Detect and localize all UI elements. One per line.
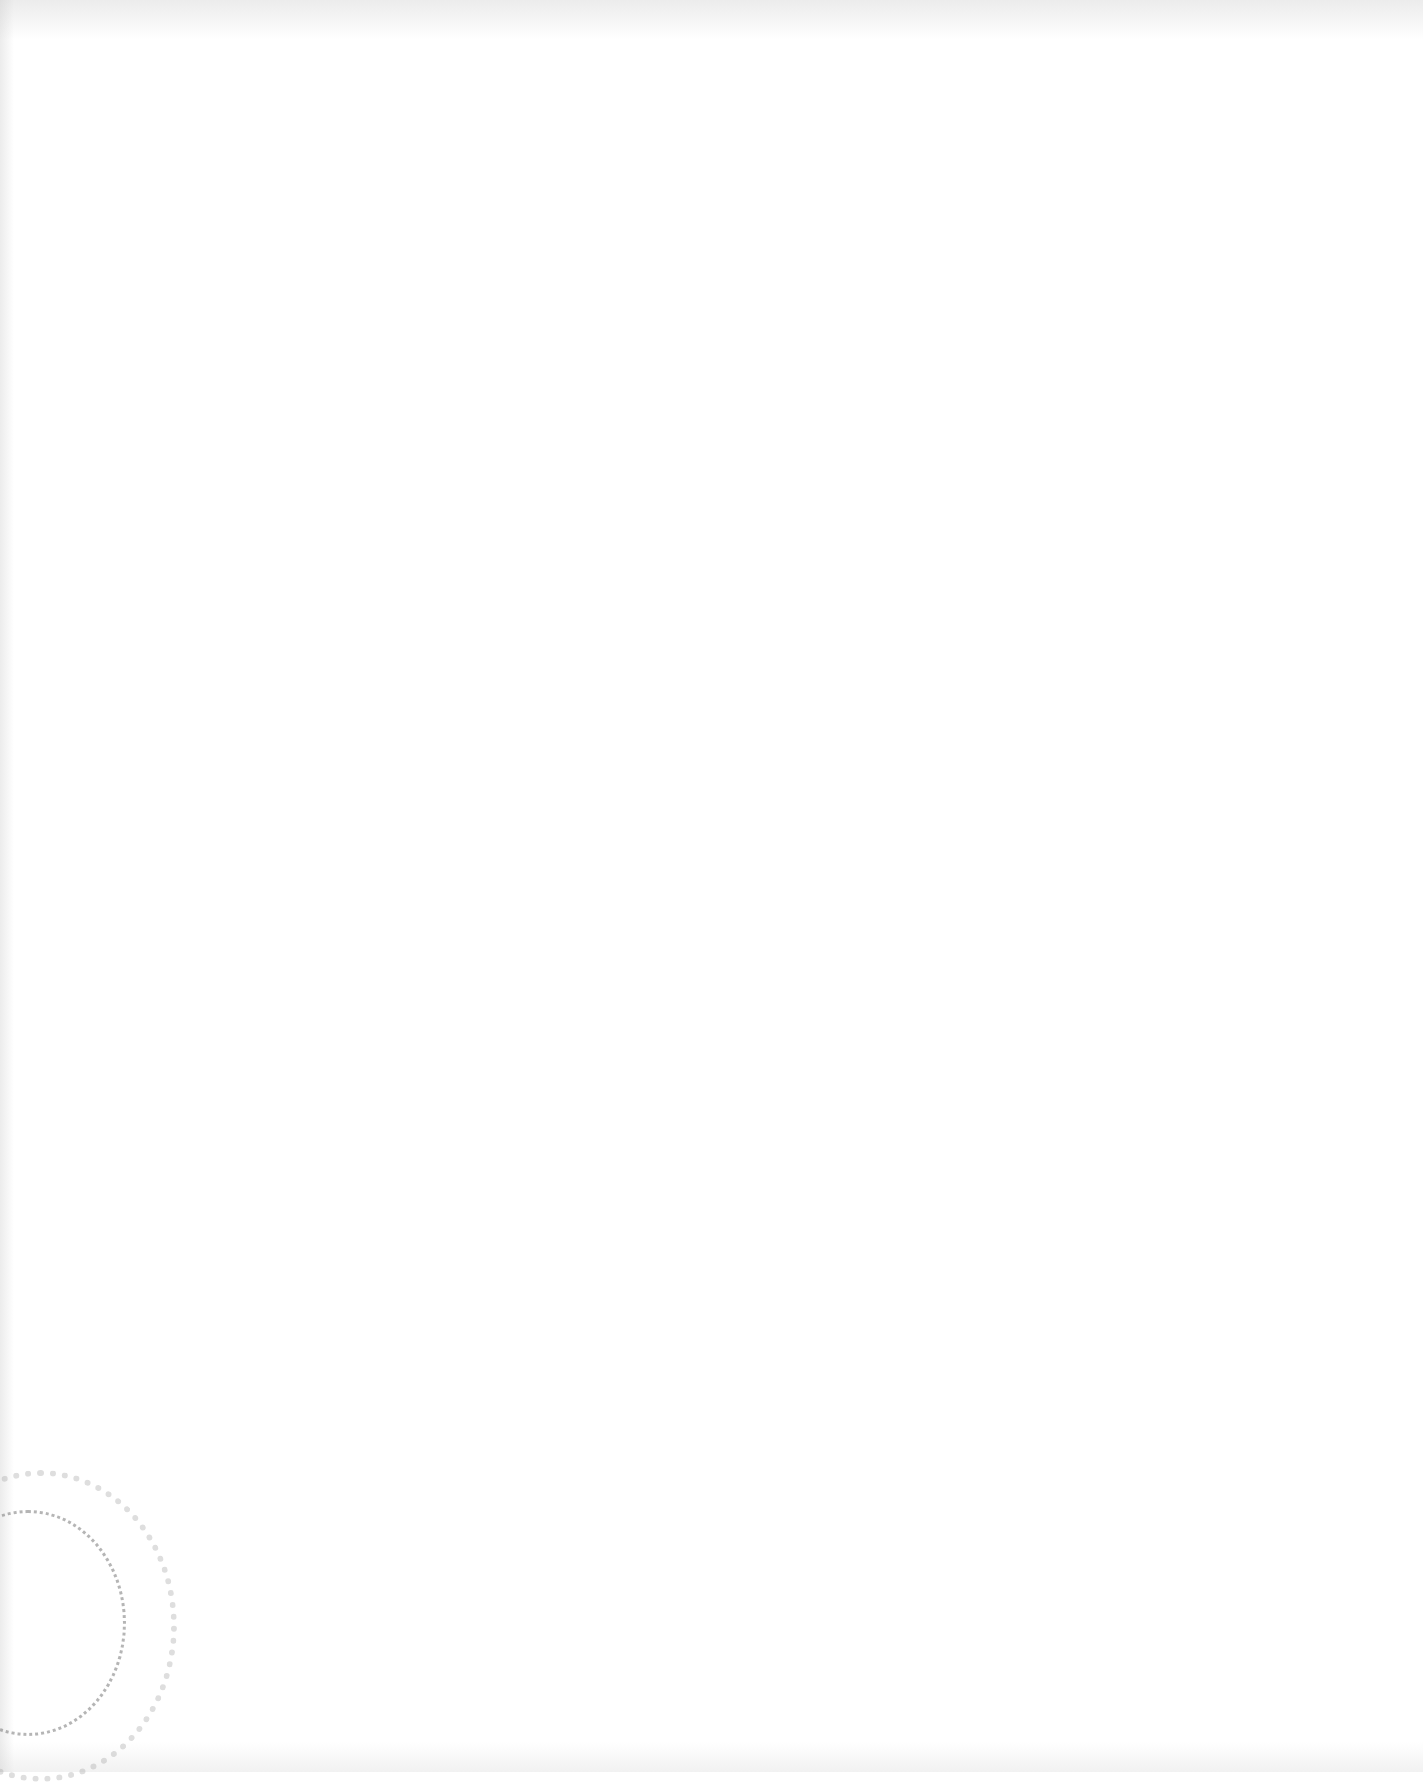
blank-page bbox=[0, 0, 1423, 1772]
